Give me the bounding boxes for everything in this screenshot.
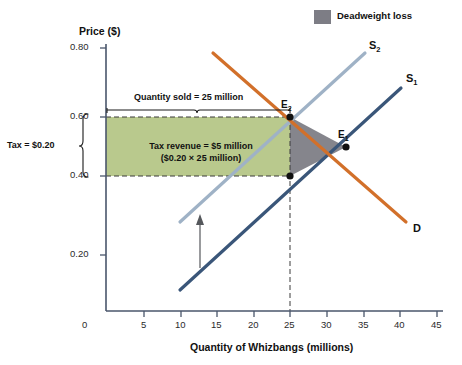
legend-swatch-deadweight-loss — [314, 10, 331, 24]
x-tick-label-45: 45 — [431, 320, 442, 331]
equilibrium-label-e1-sub: 1 — [345, 135, 349, 142]
tax-revenue-label-line2: ($0.20 × 25 million) — [140, 153, 262, 163]
quantity-sold-label: Quantity sold = 25 million — [134, 92, 243, 102]
y-tick-label-080: 0.80 — [70, 42, 89, 53]
y-axis-title: Price ($) — [79, 25, 120, 37]
equilibrium-label-e2-base: E — [281, 99, 288, 110]
x-tick-label-30: 30 — [321, 320, 332, 331]
equilibrium-label-e1: E1 — [338, 129, 349, 143]
equilibrium-point-e2 — [286, 113, 293, 120]
chart-canvas — [0, 0, 462, 365]
equilibrium-label-e2-sub: 2 — [288, 105, 292, 112]
y-tick-label-060: 0.60 — [70, 111, 89, 122]
curve-label-s1: S1 — [406, 72, 418, 88]
x-tick-label-10: 10 — [175, 320, 186, 331]
x-tick-label-25: 25 — [284, 320, 295, 331]
supplier-price-point — [286, 172, 293, 179]
curve-label-s2-sub: 2 — [376, 45, 380, 54]
tax-bracket-label: Tax = $0.20 — [7, 140, 55, 150]
economics-tax-incidence-figure: Deadweight loss Price ($) Quantity of Wh… — [0, 0, 462, 365]
equilibrium-label-e2: E2 — [281, 99, 292, 113]
x-tick-label-20: 20 — [248, 320, 259, 331]
x-tick-label-5: 5 — [141, 320, 146, 331]
y-tick-label-040: 0.40 — [70, 170, 89, 181]
x-tick-label-0: 0 — [82, 320, 87, 331]
curve-label-s2: S2 — [369, 39, 381, 55]
x-axis-title: Quantity of Whizbangs (millions) — [190, 341, 353, 353]
y-tick-label-020: 0.20 — [70, 249, 89, 260]
equilibrium-point-e1 — [342, 143, 349, 150]
curve-label-s1-sub: 1 — [413, 78, 417, 87]
tax-revenue-label-line1: Tax revenue = $5 million — [140, 141, 262, 151]
legend-label-deadweight-loss: Deadweight loss — [337, 11, 412, 22]
x-tick-label-35: 35 — [358, 320, 369, 331]
x-tick-label-15: 15 — [211, 320, 222, 331]
quantity-sold-bracket — [107, 108, 290, 113]
x-tick-label-40: 40 — [394, 320, 405, 331]
tax-bracket — [79, 114, 88, 177]
equilibrium-label-e1-base: E — [338, 129, 345, 140]
curve-label-d: D — [413, 222, 421, 235]
supply-shift-arrow-head — [196, 214, 204, 225]
